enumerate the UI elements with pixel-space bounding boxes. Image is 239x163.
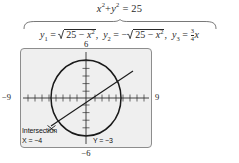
equation-y3-variable: x (195, 29, 199, 40)
radical-bar (64, 29, 95, 30)
equation-y3: y3 = 34x (172, 29, 199, 40)
intersection-readout-title: Intersection (22, 127, 57, 134)
equation-y3-denominator: 4 (191, 35, 194, 43)
radical-sign-icon (58, 29, 64, 39)
axis-label-right: 9 (155, 92, 159, 102)
axis-label-bottom: −6 (0, 148, 172, 158)
figure-container: x2+y2 = 25 y1 = 25 − x2, y2 = −25 − x2, … (0, 0, 239, 163)
underbrace-icon (22, 16, 218, 27)
intersection-readout-y: Y = −3 (93, 137, 113, 144)
equation-y3-fraction: 34 (191, 28, 194, 42)
intersection-readout-x: X = −4 (22, 137, 42, 144)
axis-label-left: −9 (2, 92, 11, 102)
radical-sign-icon (127, 29, 133, 39)
top-equation-equals: = (122, 3, 128, 14)
radical-bar (133, 29, 164, 30)
top-equation-rhs: 25 (131, 3, 142, 14)
top-equation-y-exponent: 2 (116, 1, 119, 8)
equation-y3-subscript: 3 (176, 35, 179, 42)
equation-y3-equals: = (182, 29, 188, 40)
axis-label-top: 6 (0, 39, 172, 49)
top-equation: x2+y2 = 25 (0, 1, 239, 14)
equation-y3-numerator: 3 (191, 28, 194, 35)
